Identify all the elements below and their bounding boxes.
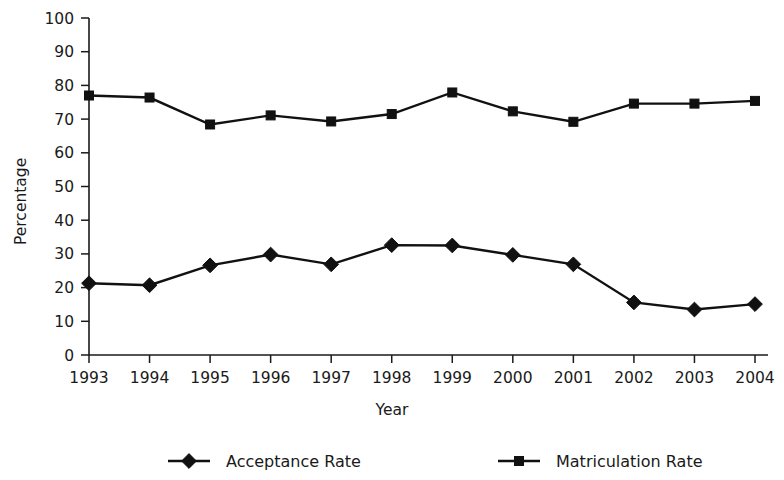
series-line	[89, 92, 755, 124]
y-axis-ticks: 0102030405060708090100	[44, 10, 89, 365]
data-point-1999	[445, 238, 460, 253]
x-tick-label: 2003	[675, 369, 714, 387]
legend-item-acceptance-rate[interactable]: Acceptance Rate	[168, 452, 361, 471]
y-tick-label: 30	[54, 245, 74, 263]
data-point-1993	[82, 276, 97, 291]
series-acceptance-rate	[82, 238, 763, 317]
data-point-2003	[690, 99, 699, 108]
data-point-1993	[85, 91, 94, 100]
data-point-1994	[145, 93, 154, 102]
data-point-1998	[387, 110, 396, 119]
data-point-2004	[748, 297, 763, 312]
y-tick-label: 90	[54, 43, 74, 61]
legend-marker-square-icon	[515, 457, 524, 466]
x-tick-label: 2002	[614, 369, 653, 387]
data-point-1995	[206, 120, 215, 129]
legend-item-matriculation-rate[interactable]: Matriculation Rate	[498, 452, 703, 471]
chart-legend: Acceptance RateMatriculation Rate	[168, 452, 703, 471]
x-axis: 1993199419951996199719981999200020012002…	[69, 355, 774, 387]
y-tick-label: 10	[54, 313, 74, 331]
data-point-2001	[569, 117, 578, 126]
y-tick-label: 60	[54, 144, 74, 162]
data-point-1994	[142, 278, 157, 293]
line-chart: Percentage 0102030405060708090100 199319…	[0, 0, 784, 480]
x-tick-label: 1996	[251, 369, 290, 387]
x-tick-label: 1998	[372, 369, 411, 387]
plot-area	[82, 88, 763, 317]
x-axis-ticks: 1993199419951996199719981999200020012002…	[69, 355, 774, 387]
data-point-2004	[751, 96, 760, 105]
x-tick-label: 2001	[554, 369, 593, 387]
series-matriculation-rate	[85, 88, 760, 129]
x-tick-label: 1994	[130, 369, 169, 387]
y-tick-label: 40	[54, 212, 74, 230]
x-tick-label: 1995	[190, 369, 229, 387]
x-tick-label: 2004	[735, 369, 774, 387]
legend-marker-diamond-icon	[182, 454, 197, 469]
legend-label: Matriculation Rate	[556, 452, 703, 471]
y-tick-label: 80	[54, 77, 74, 95]
y-axis-title: Percentage	[12, 158, 30, 245]
y-tick-label: 100	[44, 10, 74, 28]
y-tick-label: 0	[64, 347, 74, 365]
y-axis-title-label: Percentage	[12, 158, 30, 245]
data-point-1997	[327, 117, 336, 126]
x-tick-label: 2000	[493, 369, 532, 387]
data-point-2003	[687, 302, 702, 317]
y-axis: 0102030405060708090100	[44, 10, 89, 365]
data-point-2000	[508, 107, 517, 116]
data-point-2002	[629, 99, 638, 108]
y-tick-label: 50	[54, 178, 74, 196]
y-tick-label: 70	[54, 111, 74, 129]
x-axis-title-label: Year	[375, 401, 409, 419]
chart-container: Percentage 0102030405060708090100 199319…	[0, 0, 784, 480]
x-tick-label: 1999	[433, 369, 472, 387]
data-point-1997	[324, 257, 339, 272]
data-point-2002	[627, 295, 642, 310]
y-tick-label: 20	[54, 279, 74, 297]
x-tick-label: 1997	[311, 369, 350, 387]
data-point-2000	[505, 248, 520, 263]
data-point-1998	[384, 238, 399, 253]
series-line	[89, 245, 755, 309]
x-tick-label: 1993	[69, 369, 108, 387]
data-point-1999	[448, 88, 457, 97]
data-point-1996	[263, 247, 278, 262]
legend-label: Acceptance Rate	[226, 452, 361, 471]
data-point-2001	[566, 257, 581, 272]
data-point-1995	[203, 258, 218, 273]
data-point-1996	[266, 111, 275, 120]
